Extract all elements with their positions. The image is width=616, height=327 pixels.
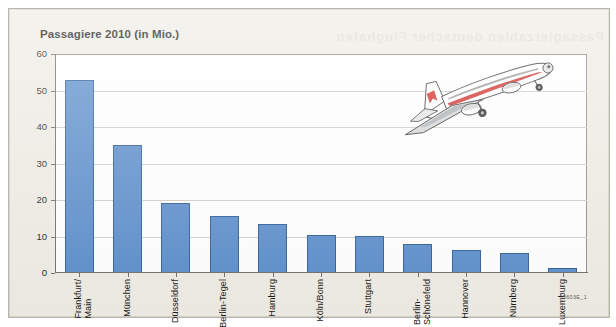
x-axis-tick-label: Luxemburg (558, 279, 568, 325)
x-axis-tick-mark (321, 273, 322, 277)
x-axis-tick-mark (128, 273, 129, 277)
x-axis-tick-mark (466, 273, 467, 277)
y-axis-tick-label: 10 (25, 232, 47, 242)
y-axis-tick-mark (51, 237, 55, 238)
x-axis-tick-mark (514, 273, 515, 277)
y-axis-tick-mark (51, 164, 55, 165)
gridline (55, 91, 587, 92)
x-axis-tick-mark (224, 273, 225, 277)
y-axis-tick-label: 50 (25, 86, 47, 96)
y-axis-tick-label: 0 (25, 268, 47, 278)
y-axis-tick-label: 40 (25, 122, 47, 132)
bar (258, 224, 287, 273)
x-axis-tick-mark (273, 273, 274, 277)
x-axis-tick-label: Köln/Bonn (316, 279, 326, 321)
y-axis-tick-mark (51, 54, 55, 55)
x-axis-tick-mark (418, 273, 419, 277)
y-axis-tick-label: 60 (25, 49, 47, 59)
x-axis-tick-label: Frankfurt/ Main (74, 279, 93, 319)
x-axis-tick-label: Hannover (461, 279, 471, 319)
y-axis-tick-mark (51, 91, 55, 92)
source-code-label: 15603E_1 (560, 294, 587, 300)
y-axis-tick-label: 30 (25, 159, 47, 169)
bar (355, 236, 384, 273)
infographic-panel: Passagierzahlen deutscher Flughafen Pass… (8, 8, 610, 318)
bar (65, 80, 94, 273)
chart-title: Passagiere 2010 (in Mio.) (40, 28, 179, 40)
x-axis-tick-mark (79, 273, 80, 277)
y-axis-tick-mark (51, 273, 55, 274)
bar (210, 216, 239, 273)
x-axis-tick-mark (176, 273, 177, 277)
x-axis-tick-label: München (123, 279, 133, 317)
bleed-through-ghost-text: Passagierzahlen deutscher Flughafen (219, 29, 604, 45)
x-axis-tick-label: Hamburg (268, 279, 278, 317)
bar (403, 244, 432, 273)
y-axis-tick-mark (51, 200, 55, 201)
bar (307, 235, 336, 273)
x-axis-tick-mark (369, 273, 370, 277)
x-axis-tick-label: Berlin-Tegel (219, 279, 229, 327)
bar (452, 250, 481, 273)
bar (113, 145, 142, 273)
plot-area (55, 54, 587, 273)
bar (161, 203, 190, 273)
y-axis-tick-label: 20 (25, 195, 47, 205)
x-axis-tick-label: Düsseldorf (171, 279, 181, 323)
x-axis-tick-mark (563, 273, 564, 277)
x-axis-tick-label: Berlin- Schönefeld (413, 279, 432, 325)
gridline (55, 127, 587, 128)
x-axis-tick-label: Stuttgart (364, 279, 374, 314)
x-axis-tick-label: Nürnberg (509, 279, 519, 317)
y-axis-line (55, 54, 56, 273)
screenshot-root: Passagierzahlen deutscher Flughafen Pass… (0, 0, 616, 327)
y-axis-tick-mark (51, 127, 55, 128)
bar (500, 253, 529, 273)
